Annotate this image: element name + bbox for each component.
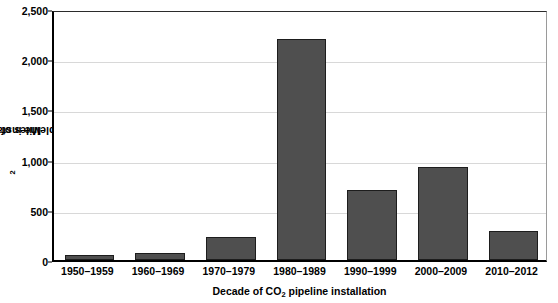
y-axis-tick-label: 2,500: [22, 5, 48, 17]
x-axis-ticks: 1950–19591960–19691970–19791980–19891990…: [52, 265, 547, 283]
bar: [489, 231, 539, 260]
x-axis-tick-label: 1980–1989: [273, 265, 326, 277]
x-axis-tick-label: 1960–1969: [132, 265, 185, 277]
y-axis-tick-label: 500: [30, 206, 48, 218]
bar: [277, 39, 327, 260]
y-axis-tick-label: 2,000: [22, 55, 48, 67]
x-axis-tick-label: 1990–1999: [344, 265, 397, 277]
y-axis-tick-label: 1,500: [22, 105, 48, 117]
bar: [418, 167, 468, 260]
bar-chart: Miles of CO2 pipleine installed 05001,00…: [0, 0, 558, 303]
plot-area: [52, 11, 547, 262]
x-axis-title: Decade of CO2 pipeline installation: [52, 285, 547, 297]
bar: [65, 255, 115, 260]
x-axis-title-subscript: 2: [281, 290, 285, 299]
bar: [347, 190, 397, 260]
y-axis-ticks: 05001,0001,5002,0002,500: [14, 0, 52, 303]
x-axis-tick-label: 2000–2009: [415, 265, 468, 277]
bar: [135, 253, 185, 260]
x-axis-tick-label: 1970–1979: [203, 265, 256, 277]
bars-layer: [54, 12, 546, 260]
x-axis-title-post: pipeline installation: [286, 285, 387, 297]
x-axis-title-pre: Decade of CO: [213, 285, 282, 297]
x-axis-tick-label: 1950–1959: [61, 265, 114, 277]
y-axis-tick-label: 1,000: [22, 156, 48, 168]
bar: [206, 237, 256, 260]
x-axis-tick-label: 2010–2012: [485, 265, 538, 277]
